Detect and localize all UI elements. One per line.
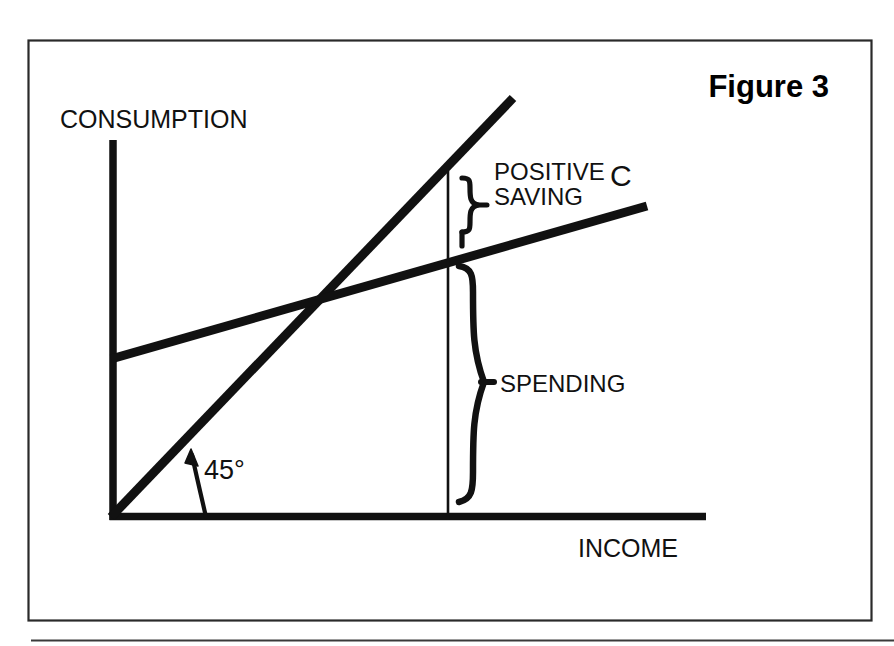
consumption-curve-label: C [610, 159, 632, 192]
x-axis-label: INCOME [578, 534, 678, 562]
y-axis-label: CONSUMPTION [60, 105, 248, 133]
positive-saving-label-line2: SAVING [494, 183, 583, 210]
figure-container: CONSUMPTION INCOME C POSITIVE SAVING SPE… [0, 0, 894, 646]
spending-label: SPENDING [500, 370, 625, 397]
angle-label: 45° [204, 455, 245, 485]
consumption-function-diagram: CONSUMPTION INCOME C POSITIVE SAVING SPE… [0, 0, 894, 646]
figure-title: Figure 3 [708, 69, 829, 104]
positive-saving-label-line1: POSITIVE [494, 158, 605, 185]
